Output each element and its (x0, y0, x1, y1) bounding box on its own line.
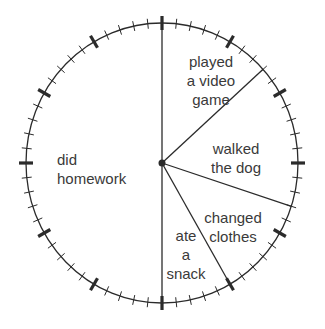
clock-pie-chart (0, 0, 325, 329)
minor-tick (268, 242, 276, 248)
minor-tick (268, 78, 276, 84)
major-tick (274, 90, 286, 97)
major-tick (38, 230, 50, 237)
minor-tick (147, 19, 148, 29)
major-tick (91, 278, 98, 290)
label-played-video-game: played a video game (176, 52, 246, 109)
minor-tick (79, 272, 85, 280)
major-tick (227, 36, 234, 48)
label-line: ate (166, 226, 206, 245)
label-line: walked (206, 139, 266, 158)
major-tick (38, 90, 50, 97)
minor-tick (239, 272, 245, 280)
major-tick (274, 230, 286, 237)
minor-tick (292, 148, 302, 149)
label-ate-a-snack: ate a snack (166, 226, 206, 283)
label-line: played (176, 52, 246, 71)
label-line: snack (166, 264, 206, 283)
label-line: a (166, 245, 206, 264)
minor-tick (22, 148, 32, 149)
label-changed-clothes: changed clothes (202, 208, 264, 246)
label-line: did (57, 150, 147, 169)
minor-tick (176, 19, 177, 29)
minor-tick (147, 297, 148, 307)
label-line: changed (202, 208, 264, 227)
major-tick (91, 36, 98, 48)
minor-tick (176, 297, 177, 307)
label-line: a video (176, 71, 246, 90)
label-did-homework: did homework (57, 150, 147, 188)
minor-tick (79, 46, 85, 54)
label-line: clothes (202, 227, 264, 246)
label-line: homework (57, 169, 147, 188)
label-line: game (176, 90, 246, 109)
label-line: the dog (206, 158, 266, 177)
label-walked-the-dog: walked the dog (206, 139, 266, 177)
center-dot (159, 160, 166, 167)
minor-tick (48, 242, 56, 248)
minor-tick (48, 78, 56, 84)
minor-tick (22, 177, 32, 178)
minor-tick (292, 177, 302, 178)
